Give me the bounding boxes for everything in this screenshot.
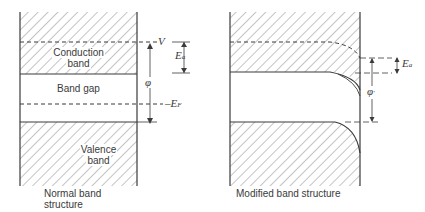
valence-band-region-modified [230,122,360,186]
conduction-band-region-modified [230,42,360,90]
work-function-label-modified: φ' [367,86,375,99]
ea-symbol-modified: E [402,57,409,69]
valence-band-label: Valence band [40,144,157,166]
ea-subscript-modified: a [409,61,413,69]
left-caption-line2: structure [44,199,101,210]
valence-label-line2: band [86,155,110,166]
conduction-label-line1: Conduction [52,47,105,58]
band-diagram-graphics [0,0,425,212]
modified-band-structure [230,12,400,186]
right-caption: Modified band structure [236,188,341,199]
electron-affinity-label-modified: Ea [402,58,412,71]
conduction-band-label: Conduction band [20,47,137,69]
conduction-label-line2: band [66,58,90,69]
fermi-subscript: F [177,101,181,109]
valence-label-line1: Valence [80,144,117,155]
band-gap-label: Band gap [20,83,137,94]
work-function-label: φ [145,77,151,88]
vacuum-level-label: V [158,36,165,47]
ea-subscript: a [182,53,186,61]
electron-affinity-label: Ea [175,50,185,63]
fermi-level-label: –EF [165,98,182,111]
ea-symbol: E [175,49,182,61]
left-caption: Normal band structure [44,188,101,210]
left-caption-line1: Normal band [44,188,101,199]
phi-prime: ' [373,89,375,97]
